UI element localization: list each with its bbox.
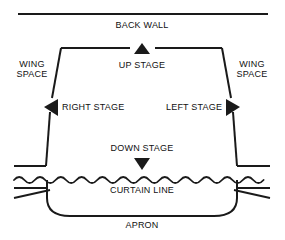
right-stage-label: RIGHT STAGE: [62, 102, 124, 112]
stage-diagram: BACK WALL WING SPACE WING SPACE UP STAGE…: [0, 0, 285, 240]
left-tormentor-line: [14, 190, 50, 198]
back-wall-label: BACK WALL: [116, 20, 169, 30]
up-stage-arrow-icon: [134, 43, 150, 54]
stage-diagram-graphics: [0, 0, 285, 240]
left-stage-label: LEFT STAGE: [166, 102, 222, 112]
stage-right-wall-lower: [233, 112, 237, 166]
right-tormentor-line: [234, 190, 270, 198]
up-stage-label: UP STAGE: [119, 60, 165, 70]
down-stage-label: DOWN STAGE: [111, 143, 174, 153]
wing-space-right-label: WING SPACE: [237, 59, 268, 79]
right-stage-arrow-icon: [44, 99, 58, 116]
curtain-line-wave: [14, 177, 264, 183]
stage-left-wall-lower: [46, 112, 50, 166]
curtain-line-label: CURTAIN LINE: [110, 185, 174, 195]
stage-right-wall-upper: [222, 48, 231, 98]
apron-label: APRON: [125, 220, 158, 230]
stage-left-wall-upper: [52, 48, 61, 98]
wing-space-left-label: WING SPACE: [17, 59, 48, 79]
down-stage-arrow-icon: [134, 158, 150, 170]
